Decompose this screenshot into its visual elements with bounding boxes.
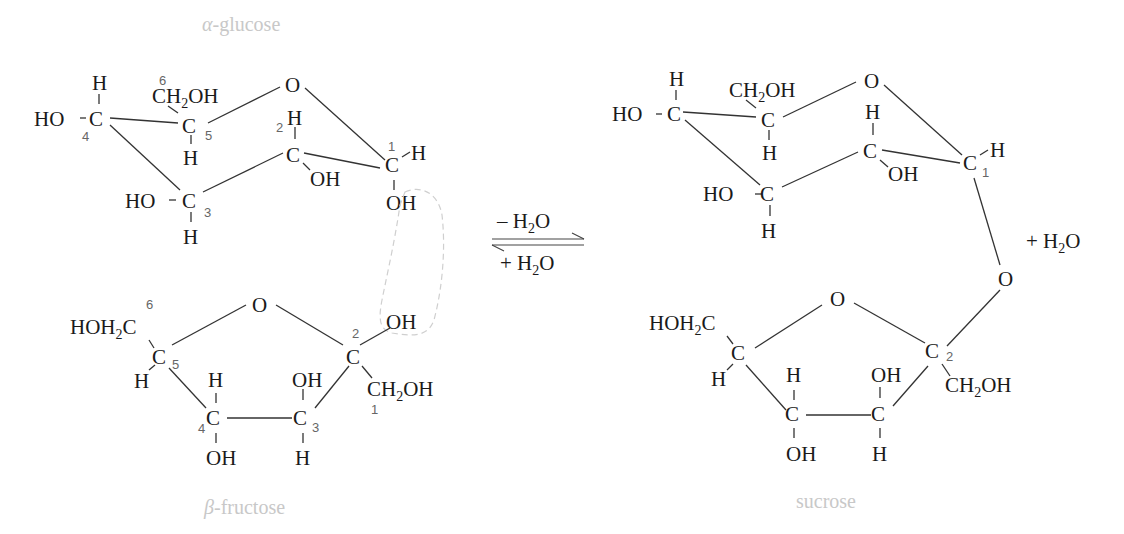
bond-c4-c5 (683, 112, 756, 117)
atom-h-c2: H (287, 106, 302, 130)
atom-c4: C (667, 102, 681, 126)
atom-oh-c2: OH (888, 162, 918, 186)
atom-c3: C (293, 406, 307, 430)
atom-h-c3: H (183, 225, 198, 249)
atom-h-c5: H (762, 141, 777, 165)
carbon-number-3: 3 (204, 205, 211, 220)
bond-o-c1 (884, 85, 962, 155)
atom-c5: C (761, 108, 775, 132)
atom-ho-c3: HO (703, 182, 733, 206)
glucose-label: α-glucose (202, 13, 280, 36)
atom-oh-c4: OH (206, 446, 236, 470)
atom-c4: C (89, 107, 103, 131)
atom-f-c2: C (925, 339, 939, 363)
carbon-number-2: 2 (352, 326, 359, 341)
sucrose-structure: H HO C CH2OH C H O H C OH C 1 H HO C H +… (612, 67, 1080, 466)
atom-h-c5: H (183, 146, 198, 170)
atom-h-c1: H (411, 141, 426, 165)
carbon-number-2: 2 (946, 349, 953, 364)
atom-ho-c4: HO (612, 102, 642, 126)
atom-f-ch2oh: CH2OH (945, 373, 1012, 400)
atom-h-c5: H (134, 369, 149, 393)
sucrose-label: sucrose (796, 490, 856, 512)
atom-f-c3: C (871, 402, 885, 426)
bond-c4-c3 (110, 125, 180, 190)
carbon-number-5: 5 (172, 357, 179, 372)
atom-c5: C (182, 114, 196, 138)
atom-hoh2c-c6: HOH2C (70, 315, 137, 342)
atom-c1: C (385, 153, 399, 177)
atom-c4: C (206, 406, 220, 430)
forward-condition: – H2O (496, 209, 550, 236)
atom-ho-c4: HO (34, 107, 64, 131)
bond-c4-c5 (110, 118, 178, 123)
atom-c1: C (963, 151, 977, 175)
forward-arrow-head (572, 233, 584, 239)
atom-ring-o: O (864, 69, 879, 93)
equilibrium-arrows: – H2O + H2O (492, 209, 584, 278)
byproduct-water: + H2O (1026, 229, 1080, 256)
atom-f-oh-c3: OH (871, 363, 901, 387)
atom-ch2oh-c6: CH2OH (152, 84, 219, 111)
carbon-number-1: 1 (982, 165, 989, 180)
atom-c5: C (152, 345, 166, 369)
bond-c2-oh (880, 160, 888, 167)
atom-ch2oh-c1: CH2OH (367, 377, 434, 404)
atom-f-h-c4: H (786, 363, 801, 387)
atom-c2: C (286, 143, 300, 167)
bond-f-c5-o (755, 305, 822, 348)
bond-c2-oh (303, 163, 310, 170)
alpha-glucose-structure: H HO C 4 6 CH2OH C 5 H O 2 H C OH 1 C H … (34, 71, 426, 249)
carbon-number-4: 4 (198, 421, 205, 436)
bond-c3-c2 (782, 152, 858, 187)
atom-f-ring-o: O (830, 287, 845, 311)
bond-o-c2 (276, 305, 343, 345)
reverse-condition: + H2O (500, 251, 554, 278)
bond-f-o-c2 (854, 303, 925, 343)
atom-c3: C (760, 182, 774, 206)
atom-c2: C (346, 345, 360, 369)
atom-h-c2: H (865, 100, 880, 124)
atom-c2: C (863, 139, 877, 163)
bond-bridge-o-c2 (947, 290, 1000, 346)
atom-f-oh-c4: OH (786, 442, 816, 466)
atom-h-c3: H (295, 446, 310, 470)
carbon-number-4: 4 (82, 129, 89, 144)
atom-bridge-o: O (998, 267, 1013, 291)
carbon-number-1: 1 (388, 139, 395, 154)
atom-f-h-c5: H (711, 367, 726, 391)
carbon-number-6: 6 (146, 297, 153, 312)
atom-ring-o: O (252, 293, 267, 317)
atom-c3: C (182, 189, 196, 213)
bond-c1-h (980, 150, 988, 155)
bond-c2-c1 (304, 153, 380, 168)
bond-c5-o (208, 87, 280, 123)
atom-f-c5: C (731, 341, 745, 365)
bond-c1-bridge-o (974, 178, 1000, 265)
bond-c5-o (172, 305, 246, 345)
atom-ring-o: O (285, 73, 300, 97)
bond-c1-h (402, 152, 410, 157)
atom-ho-c3: HO (125, 189, 155, 213)
bond-c5-c4 (169, 368, 206, 408)
atom-oh-c2: OH (386, 310, 416, 334)
carbon-number-5: 5 (205, 128, 212, 143)
atom-h-c1: H (990, 138, 1005, 162)
atom-oh-c2: OH (310, 167, 340, 191)
bond-o-c1 (305, 88, 385, 160)
carbon-number-2: 2 (276, 120, 283, 135)
atom-h-c4: H (208, 368, 223, 392)
reaction-diagram: α-glucose β-fructose sucrose H HO C 4 6 … (0, 0, 1124, 534)
atom-h-c4: H (92, 71, 107, 95)
carbon-number-3: 3 (312, 420, 319, 435)
atom-h-c3: H (761, 219, 776, 243)
atom-ch2oh-c6: CH2OH (729, 78, 796, 105)
bond-c4-c3 (685, 120, 760, 185)
atom-oh-c3: OH (292, 368, 322, 392)
atom-f-hoh2c: HOH2C (649, 311, 716, 338)
atom-f-c4: C (785, 402, 799, 426)
bond-f-c5-c4 (746, 365, 786, 410)
atom-f-h-c3: H (872, 442, 887, 466)
carbon-number-1: 1 (371, 402, 378, 417)
atom-h-c4: H (669, 67, 684, 91)
